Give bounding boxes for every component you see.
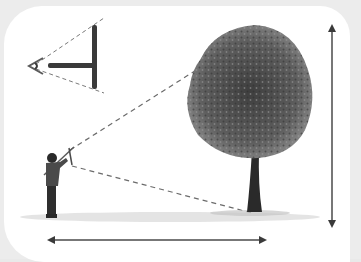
tree bbox=[187, 25, 312, 212]
cross-staff-detail bbox=[48, 25, 97, 89]
distance-arrow bbox=[47, 236, 267, 244]
person-with-cross-staff bbox=[44, 147, 74, 218]
height-arrow bbox=[328, 24, 336, 228]
ground-grass bbox=[20, 210, 320, 222]
eye-icon bbox=[29, 58, 43, 74]
